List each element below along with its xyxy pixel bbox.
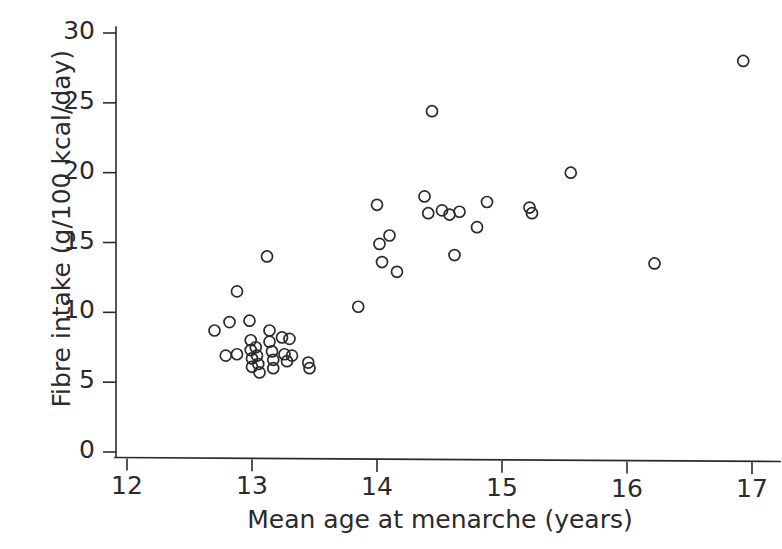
data-point-marker [244, 315, 255, 326]
data-point-marker [384, 230, 395, 241]
y-tick-label: 5 [40, 365, 95, 394]
data-point-marker [738, 55, 749, 66]
plot-canvas [0, 0, 782, 549]
data-point-marker [224, 317, 235, 328]
y-tick-label: 0 [40, 435, 95, 464]
x-tick-label: 13 [222, 471, 282, 500]
axes [115, 27, 780, 462]
y-tick-label: 25 [40, 86, 95, 115]
axis-ticks [103, 33, 752, 474]
data-point-marker [377, 257, 388, 268]
data-point-marker [419, 191, 430, 202]
data-point-marker [392, 266, 403, 277]
data-point-marker [565, 167, 576, 178]
data-point-marker [449, 250, 460, 261]
data-point-marker [353, 301, 364, 312]
data-point-marker [264, 325, 275, 336]
data-point-marker [372, 199, 383, 210]
data-point-marker [232, 286, 243, 297]
x-tick-label: 15 [472, 473, 532, 502]
data-point-marker [209, 325, 220, 336]
data-point-marker [427, 106, 438, 117]
x-tick-label: 12 [97, 471, 157, 500]
data-point-marker [374, 238, 385, 249]
data-point-marker [649, 258, 660, 269]
data-points [209, 55, 749, 377]
data-point-marker [482, 197, 493, 208]
y-tick-label: 20 [40, 156, 95, 185]
data-point-marker [472, 222, 483, 233]
data-point-marker [279, 349, 290, 360]
x-tick-label: 16 [597, 474, 657, 503]
x-axis-label: Mean age at menarche (years) [150, 505, 730, 534]
x-tick-label: 17 [722, 474, 782, 503]
data-point-marker [268, 363, 279, 374]
data-point-marker [454, 206, 465, 217]
x-tick-label: 14 [347, 472, 407, 501]
data-point-marker [277, 332, 288, 343]
data-point-marker [220, 350, 231, 361]
data-point-marker [284, 333, 295, 344]
scatter-plot-figure: Fibre intake (g/100 kcal/day) Mean age a… [0, 0, 782, 549]
y-tick-label: 30 [40, 16, 95, 45]
data-point-marker [232, 349, 243, 360]
x-axis-line [115, 458, 780, 462]
data-point-marker [423, 208, 434, 219]
data-point-marker [262, 251, 273, 262]
y-tick-label: 10 [40, 295, 95, 324]
y-tick-label: 15 [40, 226, 95, 255]
